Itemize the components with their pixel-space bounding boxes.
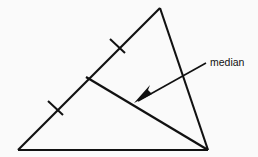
geometry-figure: median [0,0,258,157]
diagram-canvas: median [0,0,258,157]
arrow-head-icon [134,85,152,103]
triangle-right-side [160,8,208,150]
median-segment [86,77,208,150]
median-label: median [210,56,245,68]
